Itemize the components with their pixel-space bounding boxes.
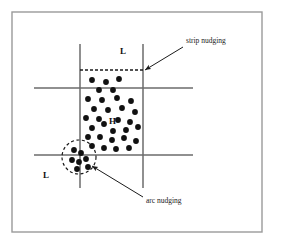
figure-container: strip nudgingarc nudgingLHL bbox=[0, 0, 281, 243]
data-point bbox=[89, 125, 95, 131]
data-point bbox=[85, 96, 91, 102]
data-point bbox=[132, 109, 138, 115]
data-point bbox=[113, 146, 119, 152]
data-point bbox=[83, 156, 89, 162]
strip-nudging-annotation: strip nudging bbox=[186, 36, 226, 45]
data-point bbox=[121, 135, 127, 141]
outer-border bbox=[12, 12, 262, 232]
strip-nudging-arrow bbox=[145, 47, 183, 70]
data-point bbox=[71, 147, 77, 153]
data-point bbox=[114, 95, 120, 101]
data-point bbox=[133, 138, 139, 144]
arc-nudging-annotation: arc nudging bbox=[146, 196, 182, 205]
data-point bbox=[101, 121, 107, 127]
data-point bbox=[69, 157, 75, 163]
data-point bbox=[135, 124, 141, 130]
data-point bbox=[109, 137, 115, 143]
data-point bbox=[96, 87, 102, 93]
data-point bbox=[119, 105, 125, 111]
data-point bbox=[76, 159, 82, 165]
data-point bbox=[83, 115, 89, 121]
data-point bbox=[78, 150, 84, 156]
label-L-top: L bbox=[120, 46, 126, 56]
data-point bbox=[85, 164, 91, 170]
data-point bbox=[110, 128, 116, 134]
data-point bbox=[126, 145, 132, 151]
label-L-bottomleft: L bbox=[43, 170, 49, 180]
data-point bbox=[103, 79, 109, 85]
data-point bbox=[74, 166, 80, 172]
data-point bbox=[99, 97, 105, 103]
data-point bbox=[97, 134, 103, 140]
data-point bbox=[85, 134, 91, 140]
data-point bbox=[91, 106, 97, 112]
data-point bbox=[110, 87, 116, 93]
diagram-canvas: strip nudgingarc nudgingLHL bbox=[0, 0, 281, 243]
data-point bbox=[116, 76, 122, 82]
data-point bbox=[96, 116, 102, 122]
data-point bbox=[127, 119, 133, 125]
data-point bbox=[123, 127, 129, 133]
data-point bbox=[89, 143, 95, 149]
label-H-center: H bbox=[109, 116, 116, 126]
data-point bbox=[101, 145, 107, 151]
data-point bbox=[128, 98, 134, 104]
arc-nudging-arrow bbox=[92, 166, 143, 197]
data-point bbox=[105, 107, 111, 113]
data-point bbox=[89, 77, 95, 83]
